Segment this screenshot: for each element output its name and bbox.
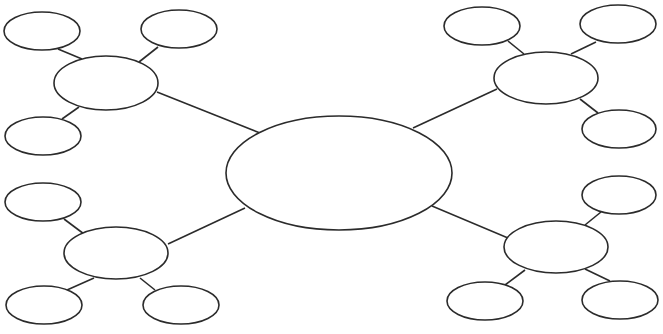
connector-top-right-to-child-1 [508, 41, 524, 54]
leaf-bubble-bottom-right-1-shape [582, 176, 656, 214]
leaf-bubble-bottom-right-1[interactable] [582, 176, 656, 214]
hub-bubble-top-left-shape [54, 56, 158, 110]
connector-bottom-left-to-child-3 [140, 278, 155, 290]
leaf-bubble-bottom-left-1-shape [5, 183, 81, 221]
leaf-bubble-top-right-2-shape [580, 5, 656, 43]
hub-bubble-top-right-shape [494, 52, 598, 104]
bubble-map-diagram [0, 0, 663, 334]
hub-bubble-bottom-right[interactable] [504, 221, 608, 273]
leaf-bubble-top-left-3[interactable] [5, 117, 81, 155]
leaf-bubble-top-left-3-shape [5, 117, 81, 155]
leaf-bubble-bottom-right-2[interactable] [447, 282, 523, 320]
hub-bubble-top-right[interactable] [494, 52, 598, 104]
leaf-bubble-top-right-3-shape [582, 110, 656, 148]
connector-center-to-top-left [157, 92, 260, 133]
leaf-bubble-bottom-left-2[interactable] [6, 286, 82, 324]
leaf-bubble-bottom-left-3[interactable] [143, 286, 219, 324]
leaf-bubble-bottom-right-2-shape [447, 282, 523, 320]
leaf-bubble-bottom-left-1[interactable] [5, 183, 81, 221]
hub-bubble-top-left[interactable] [54, 56, 158, 110]
central-bubble[interactable] [226, 116, 452, 230]
leaf-bubble-bottom-left-3-shape [143, 286, 219, 324]
connector-bottom-right-to-child-1 [585, 212, 601, 225]
connector-top-left-to-child-2 [139, 47, 158, 62]
connector-center-to-bottom-right [432, 206, 508, 238]
connector-top-right-to-child-2 [571, 42, 596, 54]
bubble-layer [4, 5, 658, 324]
connector-top-left-to-child-3 [62, 107, 79, 119]
connector-bottom-left-to-child-2 [67, 278, 94, 290]
leaf-bubble-bottom-left-2-shape [6, 286, 82, 324]
connector-bottom-right-to-child-3 [585, 269, 610, 281]
connector-center-to-top-right [413, 89, 497, 128]
connector-bottom-right-to-child-2 [505, 270, 525, 285]
connector-bottom-left-to-child-1 [64, 219, 84, 234]
leaf-bubble-top-left-1-shape [4, 12, 80, 50]
connector-center-to-bottom-left [168, 208, 245, 244]
leaf-bubble-top-left-2[interactable] [141, 10, 217, 48]
hub-bubble-bottom-left-shape [64, 227, 168, 279]
central-bubble-shape [226, 116, 452, 230]
hub-bubble-bottom-right-shape [504, 221, 608, 273]
leaf-bubble-bottom-right-3-shape [582, 281, 658, 319]
leaf-bubble-top-right-1-shape [444, 7, 520, 45]
leaf-bubble-bottom-right-3[interactable] [582, 281, 658, 319]
hub-bubble-bottom-left[interactable] [64, 227, 168, 279]
connector-top-right-to-child-3 [580, 99, 598, 113]
leaf-bubble-top-right-3[interactable] [582, 110, 656, 148]
leaf-bubble-top-left-1[interactable] [4, 12, 80, 50]
connector-top-left-to-child-1 [58, 49, 82, 59]
leaf-bubble-top-right-2[interactable] [580, 5, 656, 43]
leaf-bubble-top-right-1[interactable] [444, 7, 520, 45]
leaf-bubble-top-left-2-shape [141, 10, 217, 48]
